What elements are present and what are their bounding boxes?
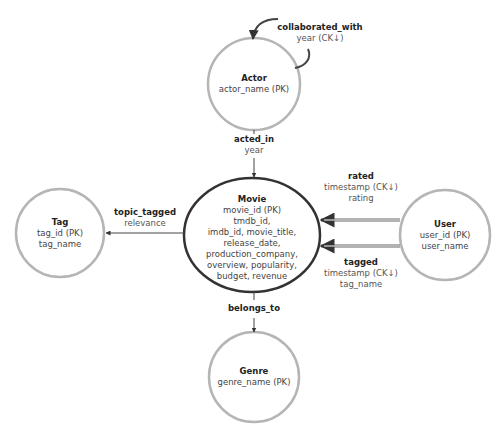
tag-title: Tag bbox=[37, 217, 83, 228]
tag-attr: tag_name bbox=[37, 239, 83, 250]
user-title: User bbox=[420, 219, 471, 230]
movie-attr: production_company, bbox=[206, 249, 298, 260]
topic-tagged-title: topic_tagged bbox=[114, 207, 176, 218]
tagged-label: tagged timestamp (CK↓) tag_name bbox=[324, 257, 398, 290]
tagged-attr: timestamp (CK↓) bbox=[324, 268, 398, 279]
movie-attr: movie_id (PK) bbox=[206, 205, 298, 216]
collaborated-with-loop-upper bbox=[253, 19, 278, 39]
movie-attr: tmdb_id, bbox=[206, 216, 298, 227]
collaborated-with-attr: year (CK↓) bbox=[277, 33, 362, 44]
tagged-attr: tag_name bbox=[324, 279, 398, 290]
tag-label: Tag tag_id (PK) tag_name bbox=[37, 217, 83, 250]
actor-attr: actor_name (PK) bbox=[219, 84, 289, 95]
genre-attr: genre_name (PK) bbox=[218, 377, 291, 388]
rated-attr: timestamp (CK↓) bbox=[324, 182, 398, 193]
actor-title: Actor bbox=[219, 73, 289, 84]
movie-attr: overview, popularity, bbox=[206, 260, 298, 271]
belongs-to-label: belongs_to bbox=[228, 303, 280, 314]
genre-label: Genre genre_name (PK) bbox=[218, 366, 291, 388]
collaborated-with-title: collaborated_with bbox=[277, 22, 362, 33]
genre-title: Genre bbox=[218, 366, 291, 377]
topic-tagged-attr: relevance bbox=[114, 218, 176, 229]
user-label: User user_id (PK) user_name bbox=[420, 219, 471, 252]
tag-attr: tag_id (PK) bbox=[37, 228, 83, 239]
topic-tagged-label: topic_tagged relevance bbox=[114, 207, 176, 229]
tagged-title: tagged bbox=[324, 257, 398, 268]
movie-attr: release_date, bbox=[206, 238, 298, 249]
rated-label: rated timestamp (CK↓) rating bbox=[324, 171, 398, 204]
rated-attr: rating bbox=[324, 193, 398, 204]
user-attr: user_id (PK) bbox=[420, 230, 471, 241]
actor-label: Actor actor_name (PK) bbox=[219, 73, 289, 95]
acted-in-title: acted_in bbox=[234, 134, 274, 145]
rated-title: rated bbox=[324, 171, 398, 182]
acted-in-label: acted_in year bbox=[234, 134, 274, 156]
collaborated-with-label: collaborated_with year (CK↓) bbox=[277, 22, 362, 44]
movie-attr: budget, revenue bbox=[206, 271, 298, 282]
user-attr: user_name bbox=[420, 241, 471, 252]
movie-attr: imdb_id, movie_title, bbox=[206, 227, 298, 238]
belongs-to-title: belongs_to bbox=[228, 303, 280, 314]
movie-label: Movie movie_id (PK) tmdb_id, imdb_id, mo… bbox=[206, 194, 298, 282]
movie-title: Movie bbox=[206, 194, 298, 205]
acted-in-attr: year bbox=[234, 145, 274, 156]
